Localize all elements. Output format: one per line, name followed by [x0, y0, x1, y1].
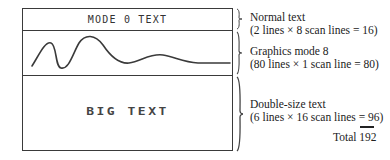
waveform-curve-icon [23, 31, 232, 75]
annotation-detail: (80 lines × 1 scan line = 80) [250, 58, 379, 71]
mode-0-text: MODE 0 TEXT [88, 14, 167, 25]
sum-rule-divider [360, 126, 374, 128]
annotation-title: Double-size text [250, 98, 383, 111]
big-text: BIG TEXT [86, 105, 169, 118]
annotation-detail: (6 lines × 16 scan lines = 96) [250, 111, 383, 124]
brace-icon [235, 31, 245, 75]
display-screen-diagram: MODE 0 TEXT BIG TEXT [22, 8, 233, 151]
total-label: Total 192 [333, 131, 377, 143]
normal-text-region: MODE 0 TEXT [23, 9, 232, 31]
annotation-title: Graphics mode 8 [250, 45, 379, 58]
annotation-double-size-text: Double-size text (6 lines × 16 scan line… [250, 98, 383, 123]
double-size-text-region: BIG TEXT [23, 76, 232, 152]
annotation-graphics-mode: Graphics mode 8 (80 lines × 1 scan line … [250, 45, 379, 70]
annotation-detail: (2 lines × 8 scan lines = 16) [250, 24, 378, 37]
brace-icon [235, 76, 245, 152]
brace-icon [235, 8, 245, 30]
graphics-region [23, 31, 232, 76]
annotation-title: Normal text [250, 11, 378, 24]
annotation-normal-text: Normal text (2 lines × 8 scan lines = 16… [250, 11, 378, 36]
